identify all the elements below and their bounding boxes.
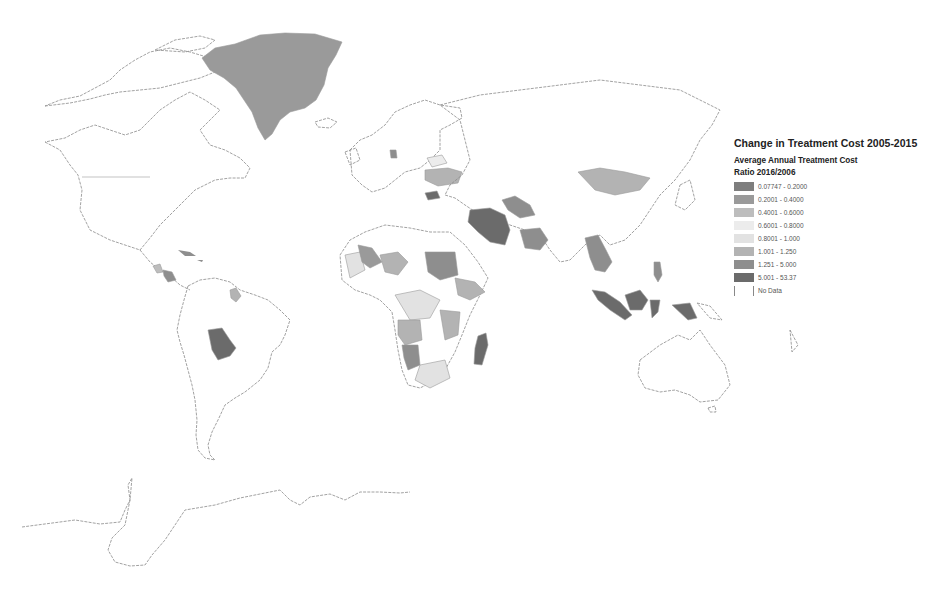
antarctica [22, 478, 410, 566]
denmark [390, 150, 397, 158]
legend-swatch [734, 234, 754, 243]
legend-ratio-label: Ratio 2016/2006 [734, 168, 934, 177]
belarus [427, 155, 447, 167]
legend-item-label: 0.8001 - 1.000 [758, 235, 800, 242]
legend-subtitle: Average Annual Treatment Cost [734, 156, 934, 165]
iran-region [468, 208, 510, 245]
legend-item: 1.251 - 5.000 [734, 258, 934, 271]
legend-swatch [734, 208, 754, 217]
legend-item-label: 0.4001 - 0.6000 [758, 209, 804, 216]
ukraine [425, 168, 462, 186]
legend-swatch [734, 247, 754, 256]
legend-swatch [734, 273, 754, 282]
legend-item-label: 5.001 - 53.37 [758, 274, 796, 281]
bulgaria [425, 191, 440, 200]
legend-item: 5.001 - 53.37 [734, 271, 934, 284]
mongolia [578, 168, 650, 195]
legend-item-label: No Data [758, 287, 782, 294]
legend-swatch [734, 286, 754, 296]
sulawesi [650, 300, 660, 318]
legend-item: 0.2001 - 0.4000 [734, 193, 934, 206]
australia [638, 330, 730, 402]
angola [398, 320, 422, 345]
philippines [654, 262, 662, 282]
legend-title: Change in Treatment Cost 2005-2015 [734, 137, 934, 149]
legend-item: 0.07747 - 0.2000 [734, 180, 934, 193]
nicaragua [163, 270, 176, 282]
namibia [402, 345, 420, 370]
pakistan [520, 228, 548, 250]
bolivia [208, 328, 236, 360]
europe [345, 100, 462, 200]
greenland [202, 33, 342, 140]
myanmar-thailand [585, 235, 612, 272]
legend-item-label: 0.07747 - 0.2000 [758, 183, 807, 190]
asia [440, 80, 722, 320]
legend-swatch [734, 260, 754, 269]
south-america [177, 278, 290, 460]
legend-item: No Data [734, 284, 934, 297]
map-legend: Change in Treatment Cost 2005-2015 Avera… [734, 137, 934, 297]
legend-swatch [734, 221, 754, 230]
africa [340, 225, 488, 388]
legend-item: 0.4001 - 0.6000 [734, 206, 934, 219]
borneo [625, 290, 648, 310]
papua [672, 303, 697, 320]
legend-item-label: 0.6001 - 0.8000 [758, 222, 804, 229]
legend-item: 1.001 - 1.250 [734, 245, 934, 258]
legend-swatch [734, 182, 754, 191]
legend-classes: 0.07747 - 0.2000 0.2001 - 0.4000 0.4001 … [734, 180, 934, 297]
sudan [425, 252, 458, 280]
legend-item-label: 1.251 - 5.000 [758, 261, 796, 268]
central-asia [502, 196, 535, 218]
legend-item: 0.6001 - 0.8000 [734, 219, 934, 232]
legend-swatch [734, 195, 754, 204]
legend-item-label: 0.2001 - 0.4000 [758, 196, 804, 203]
madagascar [474, 333, 488, 365]
legend-item: 0.8001 - 1.000 [734, 232, 934, 245]
legend-item-label: 1.001 - 1.250 [758, 248, 796, 255]
guyana [230, 288, 241, 302]
